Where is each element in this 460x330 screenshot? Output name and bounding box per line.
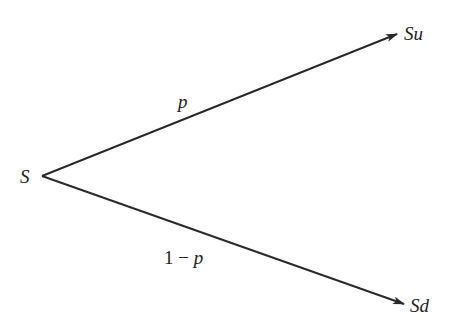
- up-probability-label: p: [178, 92, 188, 111]
- down-node-label: Sd: [410, 296, 429, 315]
- prob-one: 1: [164, 247, 174, 268]
- down-probability-label: 1 − p: [164, 248, 203, 267]
- up-branch-arrow: [42, 34, 397, 176]
- prob-minus: −: [178, 247, 189, 268]
- up-node-label: Su: [404, 24, 423, 43]
- tree-edges: [0, 0, 460, 330]
- prob-var: p: [194, 247, 204, 268]
- root-node-label: S: [20, 167, 30, 186]
- down-branch-arrow: [42, 176, 404, 304]
